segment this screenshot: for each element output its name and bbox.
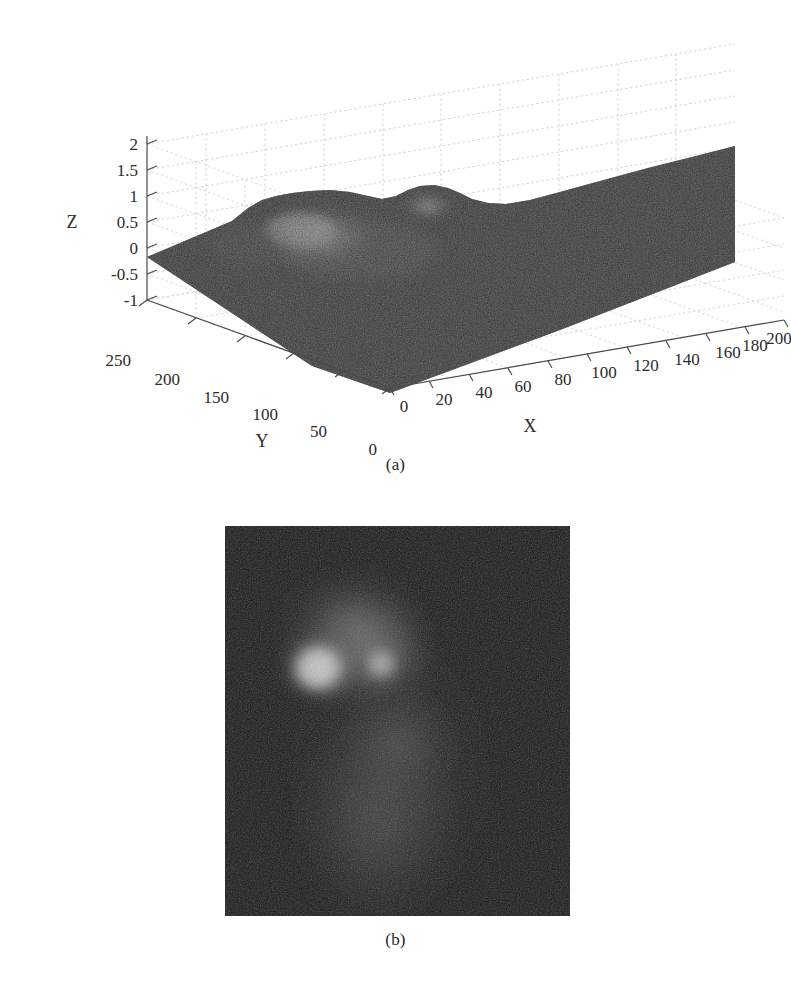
subfigure-caption-b: (b) [0,930,791,950]
x-tick-label: 160 [715,343,741,362]
y-axis-label: Y [256,431,269,451]
x-tick-label: 140 [674,350,700,369]
x-tick-label: 120 [633,356,659,375]
x-tick-label: 80 [555,370,572,389]
z-tick-label: 0.5 [117,213,138,232]
thermal-photo-svg [225,526,570,916]
x-tick-label: 60 [515,377,532,396]
z-tick-label: 2 [130,135,139,154]
y-tick-label: 150 [204,388,230,407]
y-tick-label: 250 [106,351,132,370]
x-tick-label: 0 [400,397,409,416]
y-tick-label: 50 [310,422,327,441]
subfigure-caption-a: (a) [0,455,791,475]
y-tick-label: 0 [369,440,378,455]
y-tick-label: 100 [253,405,279,424]
z-tick-label: 0 [130,239,139,258]
surface-plot-svg: 2 1.5 1 0.5 0 -0.5 -1 Z [0,0,791,455]
figure-root: 2 1.5 1 0.5 0 -0.5 -1 Z [0,0,791,986]
x-tick-label: 20 [436,390,453,409]
z-tick-label: 1.5 [117,161,138,180]
z-tick-labels: 2 1.5 1 0.5 0 -0.5 -1 [111,135,138,310]
x-tick-label: 180 [742,336,768,355]
x-tick-label: 200 [766,329,791,348]
z-tick-label: 1 [130,187,139,206]
z-tick-label: -1 [124,291,138,310]
surface-plot-canvas: 2 1.5 1 0.5 0 -0.5 -1 Z [0,0,791,455]
photo-darken-overlay [225,526,570,916]
z-axis-label: Z [67,212,78,232]
x-tick-label: 40 [476,383,493,402]
thermal-photo [225,526,570,916]
x-axis-label: X [524,416,537,436]
z-tick-label: -0.5 [111,265,138,284]
panel-a-surface-plot: 2 1.5 1 0.5 0 -0.5 -1 Z [0,0,791,500]
panel-b-grayscale-image: (b) [0,500,791,986]
x-tick-label: 100 [591,363,617,382]
y-tick-label: 200 [155,370,181,389]
